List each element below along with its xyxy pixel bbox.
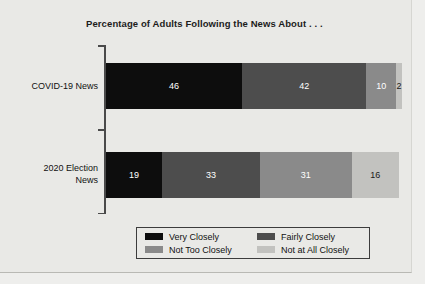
category-label-line: COVID-19 News: [8, 81, 98, 93]
legend-label: Not Too Closely: [169, 245, 232, 255]
y-axis-tick-middle: [98, 129, 105, 131]
legend-label: Fairly Closely: [281, 232, 335, 242]
bar-segment: 46: [106, 63, 242, 109]
legend-swatch: [145, 233, 163, 240]
legend-swatch: [257, 246, 275, 253]
bar-segment: 19: [106, 152, 162, 198]
bar-segment: 33: [162, 152, 260, 198]
category-label-line: News: [8, 175, 98, 187]
y-axis-tick-top: [98, 45, 105, 47]
bar-segment: 10: [366, 63, 396, 109]
bar-value-label: 46: [169, 81, 179, 91]
bar-value-label: 10: [376, 81, 386, 91]
bar-value-label: 2: [397, 81, 402, 91]
bar-segment: 42: [242, 63, 366, 109]
bar-value-label: 31: [301, 170, 311, 180]
bar-value-label: 33: [206, 170, 216, 180]
legend-swatch: [257, 233, 275, 240]
legend: Very CloselyFairly CloselyNot Too Closel…: [136, 227, 370, 259]
y-axis-tick-bottom: [98, 213, 105, 215]
legend-item[interactable]: Fairly Closely: [257, 232, 369, 242]
bar-value-label: 42: [299, 81, 309, 91]
bar-row: 4642102: [106, 63, 402, 109]
bar-row: 19333116: [106, 152, 402, 198]
bar-value-label: 19: [129, 170, 139, 180]
legend-item[interactable]: Not Too Closely: [145, 245, 257, 255]
chart-figure: Percentage of Adults Following the News …: [0, 0, 425, 284]
category-label-line: 2020 Election: [8, 163, 98, 175]
bar-segment: 31: [260, 152, 352, 198]
legend-label: Very Closely: [169, 232, 219, 242]
legend-swatch: [145, 246, 163, 253]
bar-segment: 16: [352, 152, 399, 198]
legend-item[interactable]: Not at All Closely: [257, 245, 369, 255]
legend-label: Not at All Closely: [281, 245, 349, 255]
bar-value-label: 16: [370, 170, 380, 180]
bar-segment: 2: [396, 63, 402, 109]
legend-item[interactable]: Very Closely: [145, 232, 257, 242]
